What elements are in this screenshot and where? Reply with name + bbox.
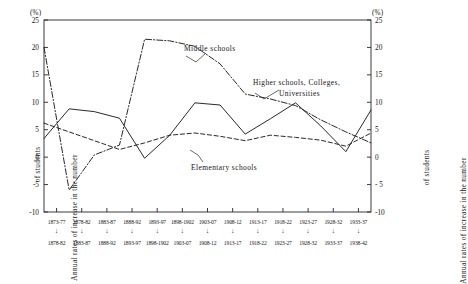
x-tick-label-row1: 1878-82 — [73, 219, 91, 225]
x-axis-arrow-icon: ↓ — [357, 227, 361, 235]
y-tick-label-left: 10 — [23, 98, 39, 107]
x-tick-label-row2: 1878-82 — [48, 240, 66, 246]
y-tick-label-left: 0 — [23, 153, 39, 162]
x-tick-label-row2: 1938-42 — [350, 240, 368, 246]
x-tick-label-row2: 1928-32 — [299, 240, 317, 246]
leader-line — [186, 53, 206, 62]
right-axis-title-line1: Annual rates of increase in the number — [459, 157, 468, 283]
y-tick-label-left: -10 — [23, 208, 39, 217]
y-tick-label-right: 10 — [375, 98, 393, 107]
x-tick-label-row2: 1908-12 — [199, 240, 217, 246]
x-tick-label-row2: 1913-17 — [224, 240, 242, 246]
axis-ticks — [44, 20, 371, 212]
y-tick-label-left: 15 — [23, 70, 39, 79]
x-axis-arrow-icon: ↓ — [181, 227, 185, 235]
x-tick-label-row1: 1923-27 — [299, 219, 317, 225]
x-tick-label-row1: 1898-1902 — [171, 219, 194, 225]
x-tick-label-row1: 1928-32 — [324, 219, 342, 225]
x-tick-label-row2: 1903-07 — [174, 240, 192, 246]
x-tick-label-row2: 1893-97 — [123, 240, 141, 246]
y-tick-label-right: 25 — [375, 16, 393, 25]
x-tick-label-row2: 1918-22 — [249, 240, 267, 246]
x-tick-label-row1: 1918-22 — [274, 219, 292, 225]
x-tick-label-row2: 1888-92 — [98, 240, 116, 246]
y-tick-label-right: 5 — [375, 125, 393, 134]
series-line-higher — [44, 103, 371, 158]
x-tick-label-row1: 1888-92 — [123, 219, 141, 225]
x-tick-label-row2: 1923-27 — [274, 240, 292, 246]
x-tick-label-row2: 1898-1902 — [146, 240, 169, 246]
y-tick-label-right: 15 — [375, 70, 393, 79]
data-series-group — [44, 39, 371, 190]
x-axis-arrow-icon: ↓ — [206, 227, 210, 235]
x-axis-arrow-icon: ↓ — [332, 227, 336, 235]
leader-line — [255, 90, 279, 99]
x-axis-arrow-icon: ↓ — [256, 227, 260, 235]
y-tick-label-right: 20 — [375, 43, 393, 52]
x-tick-label-row2: 1933-37 — [324, 240, 342, 246]
x-axis-arrow-icon: ↓ — [155, 227, 159, 235]
x-axis-arrow-icon: ↓ — [281, 227, 285, 235]
y-tick-label-left: 25 — [23, 16, 39, 25]
y-tick-label-left: -5 — [23, 180, 39, 189]
x-tick-label-row1: 1893-97 — [148, 219, 166, 225]
x-axis-arrow-icon: ↓ — [130, 227, 134, 235]
y-tick-label-right: 0 — [375, 153, 393, 162]
y-tick-label-left: 5 — [23, 125, 39, 134]
x-tick-label-row1: 1883-87 — [98, 219, 116, 225]
y-tick-label-left: 20 — [23, 43, 39, 52]
right-axis-title-line2: of students — [422, 150, 431, 186]
y-tick-label-right: -10 — [375, 208, 393, 217]
x-tick-label-row2: 1883-87 — [73, 240, 91, 246]
x-tick-label-row1: 1873-77 — [48, 219, 66, 225]
plot-frame — [44, 20, 371, 212]
x-tick-label-row1: 1913-17 — [249, 219, 267, 225]
y-tick-label-right: - 5 — [375, 180, 393, 189]
x-tick-label-row1: 1933-37 — [350, 219, 368, 225]
x-axis-arrow-icon: ↓ — [80, 227, 84, 235]
x-tick-label-row1: 1908-12 — [224, 219, 242, 225]
x-axis-arrow-icon: ↓ — [231, 227, 235, 235]
x-axis-arrow-icon: ↓ — [306, 227, 310, 235]
leader-line — [190, 150, 203, 162]
x-tick-label-row1: 1903-07 — [199, 219, 217, 225]
label-leader-lines — [186, 53, 279, 162]
x-axis-arrow-icon: ↓ — [55, 227, 59, 235]
series-line-middle — [44, 39, 371, 190]
x-axis-arrow-icon: ↓ — [105, 227, 109, 235]
